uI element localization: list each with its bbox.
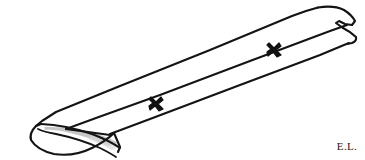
object-line-drawing [0, 0, 365, 160]
illustration-figure: E.L. [0, 0, 365, 160]
artist-signature: E.L. [337, 141, 357, 152]
